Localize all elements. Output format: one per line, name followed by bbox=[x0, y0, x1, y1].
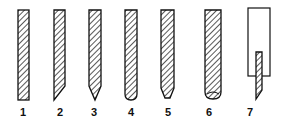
tip-2-label: 2 bbox=[57, 106, 63, 118]
tip-6-shape bbox=[205, 10, 221, 99]
tip-3-label: 3 bbox=[91, 106, 97, 118]
tip-1-label: 1 bbox=[20, 106, 26, 118]
tip-2-shape bbox=[54, 10, 65, 100]
tip-7-label: 7 bbox=[247, 106, 253, 118]
tip-4: 4 bbox=[125, 10, 137, 118]
diagram-canvas: 1 2 3 4 5 6 7 bbox=[0, 0, 284, 124]
tip-1-shape bbox=[18, 10, 29, 100]
tip-7-insert bbox=[256, 52, 262, 99]
tip-2: 2 bbox=[54, 10, 65, 118]
tip-6-label: 6 bbox=[206, 106, 212, 118]
tip-5-label: 5 bbox=[165, 106, 171, 118]
tip-4-shape bbox=[125, 10, 137, 100]
tip-5-shape bbox=[161, 10, 174, 98]
tip-3: 3 bbox=[89, 10, 101, 118]
tip-6: 6 bbox=[205, 10, 221, 118]
tip-1: 1 bbox=[18, 10, 29, 118]
tip-3-shape bbox=[89, 10, 101, 100]
tip-5: 5 bbox=[161, 10, 174, 118]
tip-4-label: 4 bbox=[128, 106, 135, 118]
tip-7: 7 bbox=[247, 8, 270, 118]
